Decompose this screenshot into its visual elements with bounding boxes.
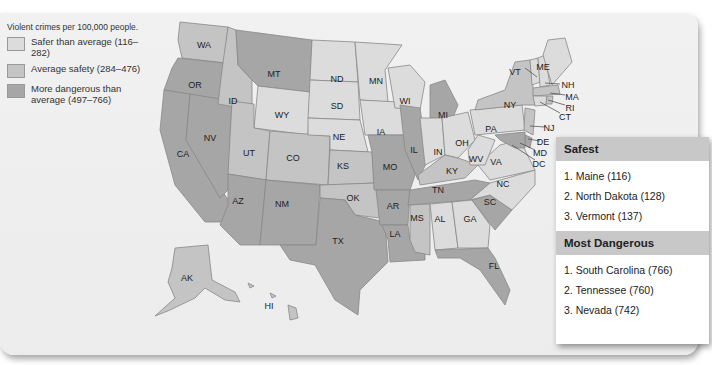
label-MD: MD	[533, 148, 547, 158]
legend-item-dangerous: More dangerous than average (497–766)	[7, 83, 141, 105]
state-NM[interactable]	[260, 180, 320, 245]
label-GA: GA	[463, 214, 476, 224]
state-SD[interactable]	[308, 80, 360, 120]
label-VT: VT	[509, 67, 521, 77]
rankings-panel: Safest 1. Maine (116) 2. North Dakota (1…	[556, 137, 709, 344]
legend-item-average: Average safety (284–476)	[7, 63, 141, 78]
state-FL[interactable]	[435, 248, 510, 305]
label-MO: MO	[383, 162, 398, 172]
label-OK: OK	[346, 193, 359, 203]
label-PA: PA	[485, 124, 496, 134]
list-item: 1. South Carolina (766)	[564, 260, 701, 280]
list-item: 2. North Dakota (128)	[564, 186, 701, 206]
dangerous-header: Most Dangerous	[556, 231, 709, 255]
label-NE: NE	[333, 132, 346, 142]
label-DC: DC	[533, 159, 546, 169]
state-RI[interactable]	[546, 96, 553, 104]
label-NY: NY	[504, 100, 517, 110]
state-MA[interactable]	[533, 85, 560, 96]
label-KY: KY	[446, 166, 458, 176]
label-CA: CA	[177, 149, 190, 159]
label-CT: CT	[559, 112, 571, 122]
state-MS[interactable]	[410, 204, 430, 255]
label-ND: ND	[331, 74, 344, 84]
label-UT: UT	[243, 148, 255, 158]
legend-title: Violent crimes per 100,000 people.	[7, 22, 141, 32]
legend-swatch-dangerous	[7, 84, 25, 98]
label-ME: ME	[536, 62, 550, 72]
label-IL: IL	[410, 145, 418, 155]
label-NV: NV	[204, 133, 217, 143]
label-MA: MA	[565, 92, 579, 102]
label-HI: HI	[265, 301, 274, 311]
legend-item-safer: Safer than average (116–282)	[7, 36, 141, 58]
label-WV: WV	[469, 154, 484, 164]
dangerous-list: 1. South Carolina (766) 2. Tennessee (76…	[556, 255, 709, 325]
state-AK[interactable]	[155, 245, 240, 316]
label-NM: NM	[275, 199, 289, 209]
map-legend: Violent crimes per 100,000 people. Safer…	[7, 22, 141, 110]
label-MS: MS	[410, 213, 424, 223]
label-NC: NC	[497, 179, 510, 189]
label-CO: CO	[286, 153, 300, 163]
label-NH: NH	[562, 80, 575, 90]
label-TX: TX	[332, 236, 344, 246]
label-SD: SD	[331, 101, 344, 111]
label-AK: AK	[181, 273, 193, 283]
label-AZ: AZ	[232, 196, 244, 206]
label-VA: VA	[490, 157, 501, 167]
label-AL: AL	[434, 214, 445, 224]
state-KS[interactable]	[328, 150, 374, 185]
label-DE: DE	[537, 137, 550, 147]
label-WY: WY	[275, 110, 290, 120]
label-OH: OH	[455, 138, 469, 148]
legend-label: More dangerous than average (497–766)	[31, 83, 141, 105]
label-OR: OR	[188, 80, 202, 90]
list-item: 2. Tennessee (760)	[564, 280, 701, 300]
state-NJ[interactable]	[524, 108, 535, 135]
list-item: 1. Maine (116)	[564, 166, 701, 186]
label-IN: IN	[434, 147, 443, 157]
legend-swatch-safer	[7, 37, 25, 51]
label-MT: MT	[268, 69, 281, 79]
label-MN: MN	[369, 76, 383, 86]
label-WI: WI	[400, 96, 411, 106]
list-item: 3. Vermont (137)	[564, 206, 701, 226]
label-MI: MI	[438, 110, 448, 120]
label-LA: LA	[389, 229, 400, 239]
label-NJ: NJ	[544, 123, 555, 133]
label-AR: AR	[387, 201, 400, 211]
legend-swatch-average	[7, 64, 25, 78]
list-item: 3. Nevada (742)	[564, 300, 701, 320]
label-WA: WA	[197, 40, 211, 50]
safest-list: 1. Maine (116) 2. North Dakota (128) 3. …	[556, 161, 709, 231]
label-SC: SC	[484, 197, 497, 207]
label-IA: IA	[377, 127, 386, 137]
label-FL: FL	[489, 261, 500, 271]
legend-label: Safer than average (116–282)	[31, 36, 141, 58]
safest-header: Safest	[556, 137, 709, 161]
legend-label: Average safety (284–476)	[31, 63, 141, 74]
label-KS: KS	[337, 161, 349, 171]
label-TN: TN	[432, 185, 444, 195]
label-ID: ID	[229, 96, 239, 106]
